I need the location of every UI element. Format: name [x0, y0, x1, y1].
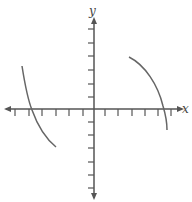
y-axis-up-arrow-icon [91, 17, 97, 24]
y-axis-label: y [88, 4, 96, 18]
x-axis-label: x [182, 102, 189, 116]
right-branch-curve [129, 57, 167, 130]
x-axis-ticks [15, 109, 171, 116]
x-axis-left-arrow-icon [4, 106, 11, 112]
left-branch-curve [22, 66, 56, 147]
y-axis-down-arrow-icon [91, 193, 97, 200]
coordinate-plane: x y [0, 0, 192, 202]
